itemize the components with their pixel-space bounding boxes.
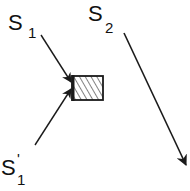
label-s1-prime-mark: ': [17, 150, 20, 167]
label-s1-prime-subscript: 1: [17, 171, 25, 188]
hatched-rectangle: [72, 76, 103, 100]
label-s2-subscript: 2: [105, 19, 113, 36]
label-s1-subscript: 1: [28, 24, 36, 41]
hatched-block: [72, 75, 103, 101]
label-s1-main: S: [8, 10, 23, 35]
s1-prime-arrow: [35, 89, 71, 145]
s2-arrow: [124, 33, 186, 165]
s1-arrow: [41, 35, 71, 82]
label-s1-prime: S ' 1: [1, 150, 25, 188]
label-s2: S 2: [88, 1, 113, 36]
beam-diagram: S 1 S 2 S ' 1: [0, 0, 190, 191]
label-s2-main: S: [88, 1, 103, 26]
label-s1: S 1: [8, 10, 36, 41]
label-s1-prime-main: S: [1, 155, 16, 180]
